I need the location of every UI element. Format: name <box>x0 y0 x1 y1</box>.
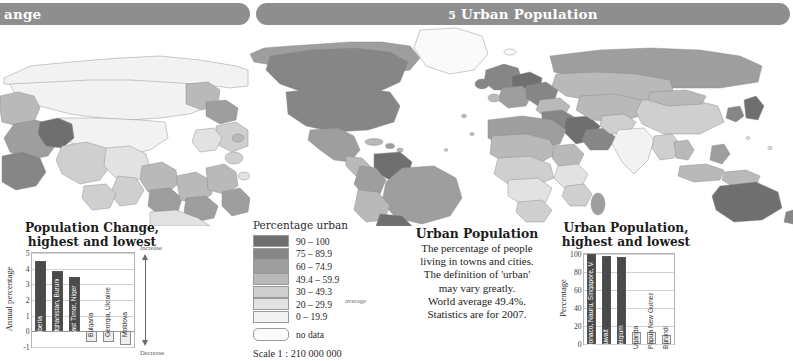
right-page-header-title: 5 Urban Population <box>256 6 790 22</box>
chart-gridline <box>584 308 674 309</box>
legend-item: 75 – 89.9 <box>253 248 385 261</box>
legend-item: 60 – 74.9 <box>253 260 385 273</box>
chart-bar-label: Kuwait <box>602 329 609 349</box>
legend-average-note: average <box>345 297 366 304</box>
chart-bar-label: Papua New Guinea <box>647 293 654 349</box>
chart-bar-label: Moldova <box>121 312 128 337</box>
legend-label: no data <box>296 329 324 340</box>
map-landmasses-left <box>0 56 250 226</box>
caption-line: The definition of 'urban' <box>393 268 561 281</box>
legend-swatch <box>253 311 289 323</box>
increase-decrease-indicator: Increase Decrease <box>140 252 164 348</box>
chart-y-tick-label: 0 <box>26 327 30 336</box>
legend-title: Percentage urban <box>253 219 385 231</box>
chart-y-tick-label: 5 <box>26 249 30 258</box>
legend-swatch <box>253 248 289 260</box>
legend-swatch <box>253 273 289 285</box>
arrow-stem <box>145 260 146 340</box>
decrease-label: Decrease <box>140 349 164 356</box>
legend-label: 49.4 – 59.9 <box>296 274 339 285</box>
chart-gridline <box>32 253 134 254</box>
chart-bar-label: Georgia, Ukraine <box>104 287 111 337</box>
chart-plot-area: 543210-1LiberiaAfghanistan, BurundiEast … <box>31 252 135 348</box>
chart-gridline <box>32 347 134 348</box>
legend-label: 0 – 19.9 <box>296 311 327 322</box>
increase-label: Increase <box>140 244 162 251</box>
caption-title: Urban Population <box>393 226 561 241</box>
chart-y-tick-label: 1 <box>26 311 30 320</box>
left-page-header-title: ange <box>4 6 41 22</box>
chart-bar-label: Afghanistan, Burundi <box>53 279 60 336</box>
chart-plot-area: 100806040200Monaco, Nauru, Singapore, Va… <box>583 253 675 345</box>
chart-bar-label: Monaco, Nauru, Singapore, Vatican City <box>587 262 594 349</box>
chart-bar-label: Belgium <box>617 325 624 349</box>
chart-y-tick-label: 80 <box>574 268 582 277</box>
legend-swatch <box>253 328 289 340</box>
map-scale-text: Scale 1 : 210 000 000 <box>253 348 385 359</box>
caption-line: World average 49.4%. <box>393 295 561 308</box>
legend-item: 49.4 – 59.9 <box>253 273 385 286</box>
population-change-map <box>0 26 250 226</box>
chart-gridline <box>584 272 674 273</box>
map-landmasses-right <box>250 28 793 226</box>
caption-line: may vary greatly. <box>393 282 561 295</box>
chart-title-line1: Population Change, <box>16 222 168 236</box>
right-page-header-bar: 5 Urban Population <box>256 3 790 25</box>
chart-y-axis-title: Percentage <box>558 279 568 317</box>
left-page-header-bar: ange <box>0 3 250 25</box>
chart-title-line1: Urban Population, <box>556 222 696 236</box>
legend-swatch <box>253 286 289 298</box>
urban-population-map-svg <box>250 26 793 226</box>
legend-label: 75 – 89.9 <box>296 248 332 259</box>
chart-gridline <box>32 300 134 301</box>
chart-bar-label: Liberia <box>36 317 43 337</box>
chapter-number: 5 <box>448 9 456 22</box>
urban-population-chart: Urban Population, highest and lowest Per… <box>556 222 696 360</box>
legend-label: 30 – 49.3 <box>296 286 332 297</box>
chart-y-tick-label: 60 <box>574 286 582 295</box>
chart-gridline <box>32 316 134 317</box>
chart-y-axis-title: Annual percentage <box>4 267 14 332</box>
legend-item-no-data: no data <box>253 328 385 341</box>
caption-line: Statistics are for 2007. <box>393 308 561 321</box>
legend-items: 90 – 100 75 – 89.9 60 – 74.9 49.4 – 59.9… <box>253 235 385 341</box>
legend-label: 90 – 100 <box>296 236 330 247</box>
population-change-map-svg <box>0 26 250 226</box>
caption-line: living in towns and cities. <box>393 255 561 268</box>
chart-gridline <box>584 326 674 327</box>
caption-line: The percentage of people <box>393 242 561 255</box>
chart-title: Urban Population, highest and lowest <box>556 222 696 249</box>
legend-swatch <box>253 260 289 272</box>
legend-swatch <box>253 235 289 247</box>
atlas-page-spread: ange 5 Urban Population <box>0 0 793 361</box>
chart-y-tick-label: 40 <box>574 304 582 313</box>
chart-y-tick-label: 100 <box>570 250 581 259</box>
chart-y-tick-label: -1 <box>23 343 29 352</box>
chart-gridline <box>584 344 674 345</box>
chart-zero-line <box>32 331 134 332</box>
chart-gridline <box>32 269 134 270</box>
map-legend: Percentage urban 90 – 100 75 – 89.9 60 –… <box>253 219 385 359</box>
legend-label: 60 – 74.9 <box>296 261 332 272</box>
chart-gridline <box>584 290 674 291</box>
urban-population-caption: Urban Population The percentage of peopl… <box>393 226 561 321</box>
chart-y-tick-label: 0 <box>578 340 582 349</box>
chart-gridline <box>32 284 134 285</box>
chart-y-tick-label: 2 <box>26 296 30 305</box>
legend-label: 20 – 29.9 <box>296 299 332 310</box>
chart-title-line2: highest and lowest <box>556 236 696 250</box>
chart-y-tick-label: 3 <box>26 280 30 289</box>
legend-item: 0 – 19.9 <box>253 311 385 324</box>
chart-bar-label: East Timor, Niger <box>70 286 77 337</box>
chart-bar-label: Uganda <box>632 326 639 349</box>
population-change-chart: Population Change, highest and lowest An… <box>2 222 162 360</box>
chart-bar-label: Bulgaria <box>87 313 94 337</box>
legend-swatch <box>253 298 289 310</box>
urban-population-world-map <box>250 26 793 226</box>
chart-y-tick-label: 20 <box>574 322 582 331</box>
chart-y-tick-label: 4 <box>26 264 30 273</box>
chart-gridline <box>584 254 674 255</box>
arrow-down-icon <box>142 340 148 346</box>
chapter-title: Urban Population <box>461 6 598 22</box>
legend-item: 90 – 100 <box>253 235 385 248</box>
